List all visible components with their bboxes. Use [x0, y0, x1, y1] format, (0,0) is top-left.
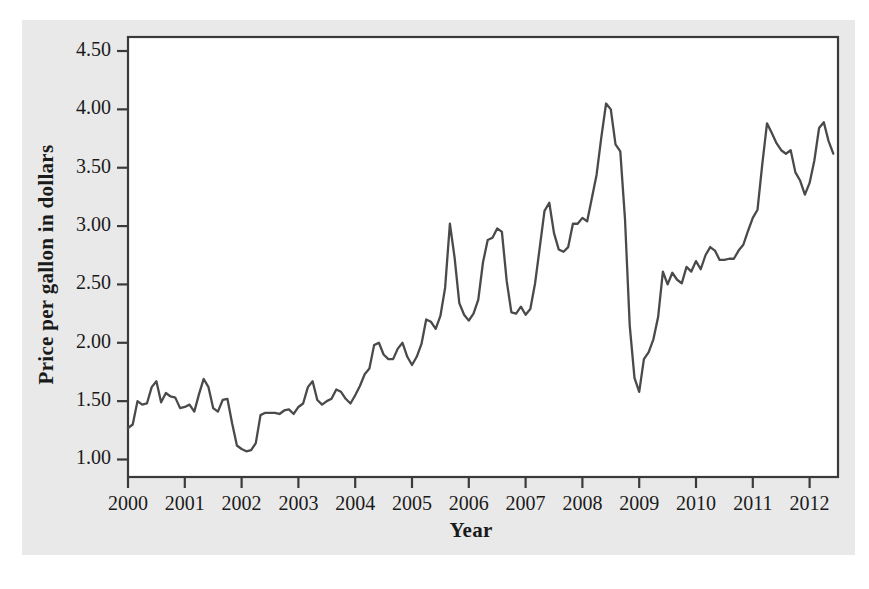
- x-tick-label: 2012: [775, 492, 845, 515]
- y-tick-label: 4.50: [39, 38, 111, 61]
- x-axis-ticks: [128, 477, 810, 488]
- y-tick-label: 1.00: [39, 446, 111, 469]
- figure-root: 1.001.502.002.503.003.504.004.50 2000200…: [0, 0, 869, 589]
- y-axis-title: Price per gallon in dollars: [34, 115, 59, 415]
- x-axis-title: Year: [131, 518, 811, 543]
- y-axis-ticks: [117, 51, 128, 459]
